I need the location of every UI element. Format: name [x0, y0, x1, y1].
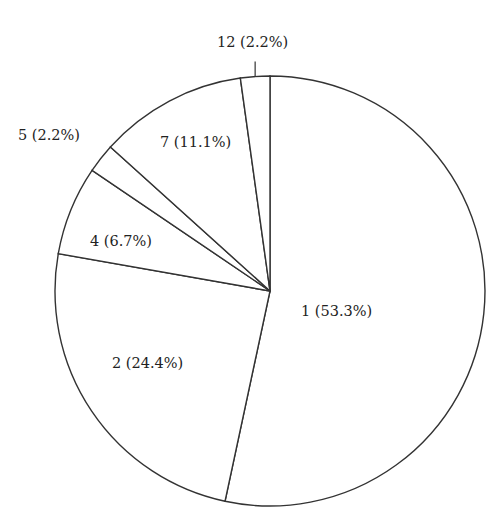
- slice-label-2: 2 (24.4%): [112, 355, 183, 371]
- pie-slices: [55, 76, 485, 506]
- slice-label-5: 5 (2.2%): [18, 127, 80, 143]
- slice-label-4: 4 (6.7%): [90, 233, 152, 249]
- pie-chart: 1 (53.3%) 2 (24.4%) 4 (6.7%) 5 (2.2%) 7 …: [0, 0, 501, 531]
- slice-label-7: 7 (11.1%): [160, 134, 231, 150]
- slice-label-12: 12 (2.2%): [217, 34, 288, 50]
- slice-label-1: 1 (53.3%): [301, 303, 372, 319]
